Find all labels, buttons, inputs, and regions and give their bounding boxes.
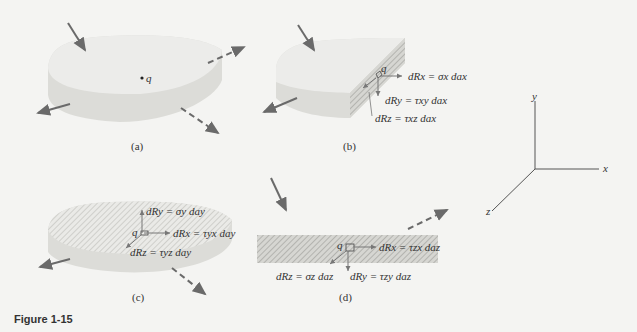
stress-figure: q (a) q dRx = σx dax dRy = τxy dax dRz =… — [0, 0, 637, 332]
equation-dRz: dRz = σz daz — [276, 270, 334, 282]
point-q-dot — [140, 76, 143, 79]
panel-c: q dRy = σy day dRx = τyx day dRz = τyz d… — [40, 201, 235, 304]
force-arrow-icon — [271, 178, 286, 210]
panel-b: q dRx = σx dax dRy = τxy dax dRz = τxz d… — [264, 25, 467, 153]
equation-dRy: dRy = τxy dax — [385, 94, 447, 106]
panel-label-b: (b) — [343, 140, 356, 153]
point-q-label: q — [146, 72, 152, 84]
panel-label-d: (d) — [339, 291, 352, 304]
panel-d: q dRx = τzx daz dRz = σz daz dRy = τzy d… — [257, 178, 447, 304]
axis-x-label: x — [602, 162, 608, 174]
equation-dRx: dRx = τyx day — [173, 227, 235, 239]
axis-z-label: z — [485, 205, 491, 217]
equation-dRx: dRx = σx dax — [408, 70, 467, 82]
figure-caption: Figure 1-15 — [14, 313, 73, 325]
dashed-force-arrow-icon — [408, 210, 447, 229]
equation-dRx: dRx = τzx daz — [379, 241, 441, 253]
coordinate-axes: y x z — [485, 90, 608, 217]
equation-dRz: dRz = τxz dax — [375, 112, 436, 124]
dashed-force-arrow-icon — [181, 108, 218, 133]
point-q-label: q — [381, 62, 387, 74]
axis-y-label: y — [531, 90, 537, 102]
panel-label-a: (a) — [131, 140, 144, 153]
dashed-force-arrow-icon — [172, 268, 205, 294]
force-arrow-icon — [40, 259, 70, 267]
equation-dRz: dRz = τyz day — [130, 246, 191, 258]
equation-dRy: dRy = τzy daz — [350, 270, 412, 282]
point-q-label: q — [132, 226, 138, 238]
point-q-label: q — [337, 239, 343, 251]
panel-a: q (a) — [38, 23, 244, 153]
equation-dRy: dRy = σy day — [146, 205, 205, 217]
panel-label-c: (c) — [132, 291, 145, 304]
